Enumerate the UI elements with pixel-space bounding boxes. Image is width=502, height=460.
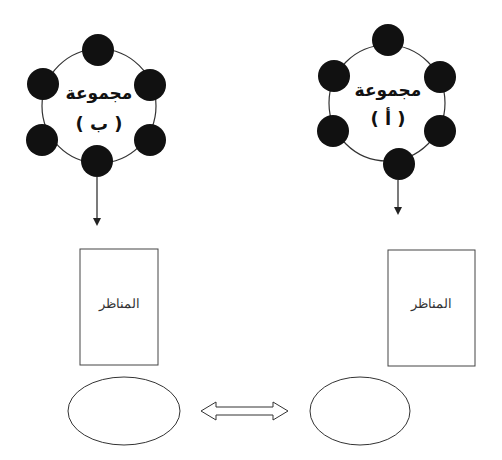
group-b-box-label: المناظر bbox=[80, 296, 158, 311]
group-a-label: ( أ ) bbox=[343, 108, 433, 129]
double-arrow-icon bbox=[201, 402, 288, 420]
group-b-node bbox=[82, 34, 114, 66]
group-b-title: مجموعة bbox=[54, 83, 144, 103]
group-b-label: ( ب ) bbox=[54, 113, 144, 134]
group-a-node bbox=[372, 24, 404, 56]
group-a-box-label: المناظر bbox=[388, 296, 475, 311]
group-b-node bbox=[81, 145, 113, 177]
group-a-node bbox=[383, 148, 415, 180]
group-b-down-arrow bbox=[93, 176, 101, 226]
group-a-down-arrow bbox=[394, 180, 402, 215]
group-a-title: مجموعة bbox=[343, 80, 433, 100]
group-a-ellipse bbox=[310, 377, 410, 445]
diagram-canvas bbox=[0, 0, 502, 460]
group-b-ring bbox=[26, 34, 166, 177]
group-b-ellipse bbox=[68, 377, 180, 445]
group-a-ring bbox=[317, 24, 456, 180]
